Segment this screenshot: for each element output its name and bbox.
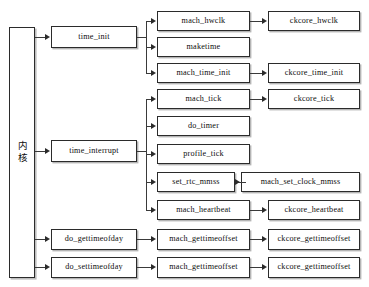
node-do-gettimeofday-label: do_gettimeofday xyxy=(65,235,123,243)
figure-caption xyxy=(10,0,250,7)
node-mach-gettimeoffset-1: mach_gettimeoffset xyxy=(157,229,250,250)
node-mach-set-clock-mmss: mach_set_clock_mmss xyxy=(241,172,360,192)
node-mach-tick-label: mach_tick xyxy=(186,95,222,103)
arrowhead-time-interrupt-do-timer xyxy=(151,123,156,129)
node-mach-heartbeat: mach_heartbeat xyxy=(157,200,250,220)
node-mach-heartbeat-label: mach_heartbeat xyxy=(176,206,231,214)
arrowhead-time-interrupt-mach-heartbeat xyxy=(151,207,156,213)
arrowhead-time-init-mach-time-init xyxy=(151,70,156,76)
arrowhead-kernel-do-gettimeofday xyxy=(45,236,50,242)
node-ckcore-tick: ckcore_tick xyxy=(268,89,360,109)
node-mach-gettimeoffset-1-label: mach_gettimeoffset xyxy=(169,235,237,243)
arrowhead-mach-gettimeoffset-1-ckcore-gettimeoffset-1 xyxy=(262,236,267,242)
arrowhead-time-init-mach-hwclk xyxy=(151,18,156,24)
node-time-init-label: time_init xyxy=(78,33,109,41)
node-profile-tick: profile_tick xyxy=(157,144,250,164)
node-do-gettimeofday: do_gettimeofday xyxy=(51,229,137,250)
arrowhead-do-settimeofday-mach-gettimeoffset xyxy=(151,264,156,270)
node-ckcore-gettimeoffset-2-label: ckcore_gettimeoffset xyxy=(278,263,351,271)
connector-do-gettimeofday-mach-gettimeoffset xyxy=(137,239,152,240)
node-ckcore-gettimeoffset-1: ckcore_gettimeoffset xyxy=(268,229,360,250)
node-set-rtc-mmss: set_rtc_mmss xyxy=(157,172,235,192)
node-mach-gettimeoffset-2: mach_gettimeoffset xyxy=(157,257,250,278)
node-do-timer: do_timer xyxy=(157,116,250,136)
connector-time-interrupt-bus xyxy=(146,99,147,211)
node-ckcore-tick-label: ckcore_tick xyxy=(294,95,334,103)
arrowhead-mach-tick-ckcore-tick xyxy=(262,96,267,102)
node-mach-hwclk-label: mach_hwclk xyxy=(182,17,226,25)
node-do-timer-label: do_timer xyxy=(188,122,219,130)
arrowhead-mach-gettimeoffset-2-ckcore-gettimeoffset-2 xyxy=(262,264,267,270)
node-ckcore-time-init: ckcore_time_init xyxy=(268,63,360,83)
node-time-interrupt-label: time_interrupt xyxy=(69,147,119,155)
node-do-settimeofday-label: do_settimeofday xyxy=(65,263,123,271)
node-ckcore-gettimeoffset-2: ckcore_gettimeoffset xyxy=(268,257,360,278)
arrowhead-mach-hwclk-ckcore-hwclk xyxy=(262,18,267,24)
node-ckcore-gettimeoffset-1-label: ckcore_gettimeoffset xyxy=(278,235,351,243)
node-profile-tick-label: profile_tick xyxy=(183,150,224,158)
arrowhead-set-rtc-mmss-mach-set-clock-mmss xyxy=(235,179,240,185)
node-kernel-label: 内核 xyxy=(17,141,27,165)
arrowhead-time-interrupt-mach-tick xyxy=(151,96,156,102)
node-ckcore-time-init-label: ckcore_time_init xyxy=(285,69,344,77)
node-set-rtc-mmss-label: set_rtc_mmss xyxy=(172,178,219,186)
node-mach-hwclk: mach_hwclk xyxy=(157,11,250,31)
arrowhead-kernel-time-init xyxy=(45,34,50,40)
node-kernel: 内核 xyxy=(9,27,35,278)
node-ckcore-heartbeat: ckcore_heartbeat xyxy=(268,200,360,220)
node-mach-set-clock-mmss-label: mach_set_clock_mmss xyxy=(261,178,341,186)
arrowhead-time-init-maketime xyxy=(151,44,156,50)
connector-do-settimeofday-mach-gettimeoffset xyxy=(137,267,152,268)
node-mach-time-init: mach_time_init xyxy=(157,63,250,83)
node-ckcore-hwclk: ckcore_hwclk xyxy=(268,11,360,31)
node-ckcore-heartbeat-label: ckcore_heartbeat xyxy=(284,206,343,214)
node-maketime-label: maketime xyxy=(187,43,221,51)
figure-canvas: 内核 time_init time_interrupt do_gettimeof… xyxy=(0,0,369,287)
node-time-init: time_init xyxy=(51,26,137,48)
arrowhead-time-interrupt-set-rtc-mmss xyxy=(151,179,156,185)
arrowhead-mach-time-init-ckcore-time-init xyxy=(262,70,267,76)
node-mach-time-init-label: mach_time_init xyxy=(176,69,230,77)
node-mach-tick: mach_tick xyxy=(157,89,250,109)
node-do-settimeofday: do_settimeofday xyxy=(51,257,137,278)
node-time-interrupt: time_interrupt xyxy=(51,140,137,162)
node-mach-gettimeoffset-2-label: mach_gettimeoffset xyxy=(169,263,237,271)
arrowhead-time-interrupt-profile-tick xyxy=(151,151,156,157)
arrowhead-mach-heartbeat-ckcore-heartbeat xyxy=(262,207,267,213)
arrowhead-kernel-time-interrupt xyxy=(45,148,50,154)
arrowhead-kernel-do-settimeofday xyxy=(45,264,50,270)
node-ckcore-hwclk-label: ckcore_hwclk xyxy=(290,17,338,25)
arrowhead-do-gettimeofday-mach-gettimeoffset xyxy=(151,236,156,242)
node-maketime: maketime xyxy=(157,37,250,57)
